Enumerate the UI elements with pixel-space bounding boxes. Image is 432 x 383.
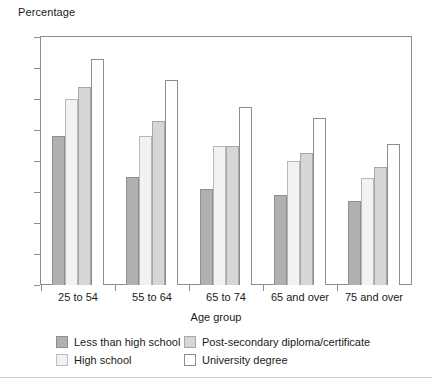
x-axis-category-label: 65 to 74 (189, 291, 263, 303)
bar (361, 178, 374, 285)
bar (139, 136, 152, 285)
x-axis-title: Age group (0, 311, 432, 323)
bar (152, 121, 165, 285)
legend-label: Post-secondary diploma/certificate (202, 336, 370, 349)
legend-item: Post-secondary diploma/certificate (184, 336, 396, 349)
legend-item: University degree (184, 354, 396, 367)
bar-group (263, 37, 337, 285)
chart-legend: Less than high schoolPost-secondary dipl… (56, 333, 396, 369)
bar-group (115, 37, 189, 285)
legend-label: University degree (202, 354, 288, 367)
bar (165, 80, 178, 285)
bar (300, 153, 313, 285)
legend-label: High school (74, 354, 131, 367)
x-axis-separator (263, 285, 264, 291)
y-axis-title: Percentage (18, 6, 75, 18)
x-axis-category-label: 25 to 54 (41, 291, 115, 303)
bar (226, 146, 239, 286)
bar-group (189, 37, 263, 285)
bar (91, 59, 104, 285)
x-axis-separator (337, 285, 338, 291)
bar (65, 99, 78, 285)
bar-chart: Percentage 01020304050607080 Age group L… (0, 0, 432, 383)
bar (78, 87, 91, 285)
legend-swatch (56, 336, 68, 348)
legend-swatch (56, 354, 68, 366)
bar (313, 118, 326, 285)
legend-item: High school (56, 354, 184, 367)
x-axis-separator (189, 285, 190, 291)
bar (274, 195, 287, 285)
x-axis-category-label: 65 and over (263, 291, 337, 303)
bar (348, 201, 361, 285)
x-axis-category-label: 55 to 64 (115, 291, 189, 303)
x-axis-separator (115, 285, 116, 291)
y-axis-tick-mark (34, 285, 40, 286)
bar (200, 189, 213, 285)
bar (126, 177, 139, 286)
legend-swatch (184, 336, 196, 348)
bar (287, 161, 300, 285)
bar (387, 144, 400, 285)
bar (374, 167, 387, 285)
bar (52, 136, 65, 285)
legend-label: Less than high school (74, 336, 180, 349)
legend-swatch (184, 354, 196, 366)
bar-group (41, 37, 115, 285)
x-axis-separator (41, 285, 42, 291)
bar (213, 146, 226, 286)
bar-group (337, 37, 411, 285)
legend-item: Less than high school (56, 336, 184, 349)
bottom-divider (0, 377, 432, 378)
bar (239, 107, 252, 285)
x-axis-category-label: 75 and over (337, 291, 411, 303)
plot-area (41, 37, 411, 285)
